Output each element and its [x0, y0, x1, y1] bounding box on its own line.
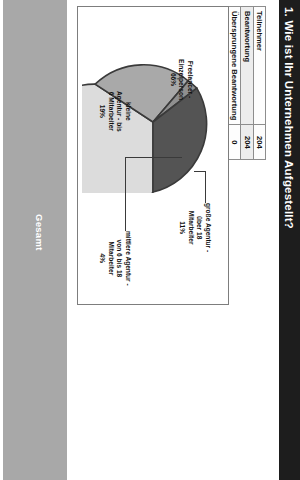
summary-table: Teilnehmer 204 Beantwortung 204 Überspru…	[228, 6, 266, 160]
summary-value-uebersprungene: 0	[228, 125, 240, 160]
pie-callout-mittlere-pct: 4%	[98, 231, 107, 286]
gesamt-band: Gesamt	[3, 0, 67, 480]
pie-callout-grosse-agentur: große Agentur - über 18 Mitarbeiter 11%	[178, 203, 212, 252]
pie-label-kleine-line3: 6 Mitarbeiter	[106, 91, 115, 132]
pie-callout-grosse-line1: große Agentur -	[203, 203, 212, 252]
pie-chart-frame: Freelancer - Einzelperson 66% kleine Age…	[77, 6, 229, 305]
leader-line-grosse-agentur	[205, 171, 206, 203]
pie-label-kleine-line2: Agentur - bis	[115, 91, 124, 132]
pie-callout-grosse-line2: über 18	[195, 203, 204, 252]
pie-callout-mittlere-line1: mittlere Agentur -	[123, 231, 132, 286]
gesamt-label: Gesamt	[34, 214, 45, 251]
table-row: Teilnehmer 204	[253, 7, 265, 160]
page-title: 1. Wie ist Ihr Unternehmen Aufgestellt?	[284, 7, 296, 229]
pie-callout-mittlere-line3: Mitarbeiter	[106, 231, 115, 286]
pie-callout-mittlere-line2: von 6 bis 18	[115, 231, 124, 286]
question-title-band: 1. Wie ist Ihr Unternehmen Aufgestellt?	[279, 0, 300, 480]
pie-label-freelancer-line2: Einzelperson	[177, 59, 186, 100]
pie-label-kleine-line1: kleine	[123, 91, 132, 132]
rotated-page-stage: 1. Wie ist Ihr Unternehmen Aufgestellt? …	[0, 0, 300, 480]
results-panel: Teilnehmer 204 Beantwortung 204 Überspru…	[73, 0, 273, 480]
table-row: Übersprungene Beantwortung 0	[228, 7, 240, 160]
pie-label-freelancer-pct: 66%	[168, 59, 177, 100]
pie-callout-mittlere-agentur: mittlere Agentur - von 6 bis 18 Mitarbei…	[98, 231, 132, 286]
summary-value-teilnehmer: 204	[253, 125, 265, 160]
pie-label-freelancer-line1: Freelancer -	[185, 59, 194, 100]
summary-label-beantwortung: Beantwortung	[241, 7, 253, 125]
leader-line-grosse-agentur-stub	[194, 171, 206, 172]
leader-line-mittlere-agentur-stub	[126, 157, 182, 158]
summary-label-uebersprungene: Übersprungene Beantwortung	[228, 7, 240, 125]
pie-label-freelancer: Freelancer - Einzelperson 66%	[168, 59, 194, 100]
summary-value-beantwortung: 204	[241, 125, 253, 160]
leader-line-mittlere-agentur	[125, 157, 126, 231]
summary-label-teilnehmer: Teilnehmer	[253, 7, 265, 125]
pie-callout-grosse-line3: Mitarbeiter	[186, 203, 195, 252]
pie-label-kleine-pct: 19%	[98, 91, 107, 132]
pie-callout-grosse-pct: 11%	[178, 203, 187, 252]
pie-label-kleine-agentur: kleine Agentur - bis 6 Mitarbeiter 19%	[98, 91, 132, 132]
table-row: Beantwortung 204	[241, 7, 253, 160]
